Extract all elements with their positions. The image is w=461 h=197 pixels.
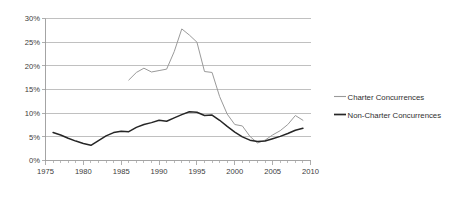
- y-axis-tick-label: 15%: [25, 85, 40, 94]
- legend-label-charter: Charter Concurrences: [348, 93, 425, 102]
- line-chart: 0%5%10%15%20%25%30% 19751980198519901995…: [0, 0, 461, 197]
- y-axis-tick-label: 30%: [25, 14, 40, 23]
- x-axis-tick-label: 1980: [75, 167, 92, 176]
- x-axis-tick-label: 1995: [188, 167, 205, 176]
- x-axis-tick-label: 2000: [226, 167, 243, 176]
- y-axis-tick-label: 10%: [25, 109, 40, 118]
- gridlines: [46, 19, 311, 137]
- x-axis-tick-label: 1990: [151, 167, 168, 176]
- chart-container: 0%5%10%15%20%25%30% 19751980198519901995…: [0, 0, 461, 197]
- x-axis-tick-label: 2010: [302, 167, 319, 176]
- data-series: [53, 29, 303, 145]
- y-axis-tick-label: 0%: [29, 156, 40, 165]
- y-axis-tick-label: 20%: [25, 62, 40, 71]
- x-axis-tick-label: 1985: [113, 167, 130, 176]
- y-axis-tick-labels: 0%5%10%15%20%25%30%: [25, 14, 40, 165]
- x-axis-tick-label: 1975: [37, 167, 54, 176]
- series-line-non-charter: [53, 112, 303, 146]
- x-axis-tick-label: 2005: [264, 167, 281, 176]
- y-axis-tick-label: 25%: [25, 38, 40, 47]
- chart-legend: Charter ConcurrencesNon-Charter Concurre…: [334, 93, 441, 120]
- x-axis-tick-labels: 19751980198519901995200020052010: [37, 167, 319, 176]
- legend-label-non-charter: Non-Charter Concurrences: [348, 111, 442, 120]
- series-line-charter: [129, 29, 303, 143]
- y-axis-tick-label: 5%: [29, 133, 40, 142]
